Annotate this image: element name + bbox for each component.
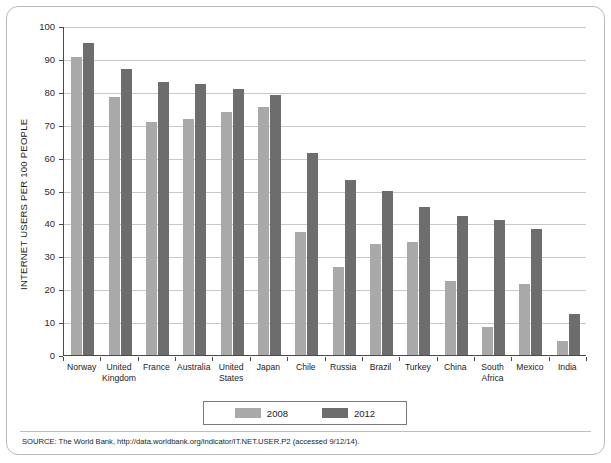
bar-2008 (482, 327, 493, 355)
bar-group (176, 27, 213, 355)
bar-2012 (382, 191, 393, 355)
source-note: SOURCE: The World Bank, http://data.worl… (22, 437, 359, 446)
legend-entry-2008[interactable]: 2008 (235, 408, 288, 419)
bar-group (512, 27, 549, 355)
bar-2008 (295, 232, 306, 355)
x-tick-mark (250, 357, 251, 361)
x-tick-mark (511, 357, 512, 361)
x-tick-mark (325, 357, 326, 361)
bar-2012 (569, 314, 580, 355)
x-tick-mark (175, 357, 176, 361)
bar-2008 (370, 244, 381, 355)
x-tick-mark (399, 357, 400, 361)
bar-group (139, 27, 176, 355)
bar-2008 (519, 284, 530, 355)
y-tick-label: 10 (29, 318, 55, 328)
y-tick-label: 40 (29, 219, 55, 229)
bar-2008 (445, 281, 456, 355)
bar-2012 (233, 89, 244, 355)
chart-figure: INTERNET USERS PER 100 PEOPLE 0102030405… (0, 0, 611, 463)
legend-label-2012: 2012 (354, 408, 375, 419)
x-tick-mark (287, 357, 288, 361)
y-axis-title: INTERNET USERS PER 100 PEOPLE (18, 276, 29, 290)
plot-area (63, 27, 586, 356)
bar-2012 (494, 220, 505, 355)
bar-group (326, 27, 363, 355)
y-tick-label: 60 (29, 154, 55, 164)
bar-2012 (121, 69, 132, 355)
bar-2008 (183, 119, 194, 355)
source-divider (20, 431, 591, 432)
bar-2012 (83, 43, 94, 355)
bar-group (400, 27, 437, 355)
x-tick-mark (549, 357, 550, 361)
bar-group (363, 27, 400, 355)
bar-2008 (71, 57, 82, 355)
y-tick-label: 30 (29, 252, 55, 262)
x-tick-mark (100, 357, 101, 361)
y-tick-label: 20 (29, 285, 55, 295)
x-tick-mark (362, 357, 363, 361)
x-tick-mark (212, 357, 213, 361)
bar-group (64, 27, 101, 355)
bar-2012 (307, 153, 318, 355)
bar-2008 (258, 107, 269, 355)
y-tick-label: 70 (29, 121, 55, 131)
bar-2012 (345, 180, 356, 355)
bar-2012 (270, 95, 281, 355)
bar-2012 (158, 82, 169, 355)
legend-entry-2012[interactable]: 2012 (322, 408, 375, 419)
x-tick-mark (63, 357, 64, 361)
legend-swatch-2008 (235, 408, 261, 418)
chart-legend: 2008 2012 (203, 401, 407, 425)
bar-2008 (109, 97, 120, 355)
bar-2008 (221, 112, 232, 355)
x-tick-mark (586, 357, 587, 361)
bar-group (213, 27, 250, 355)
bar-group (288, 27, 325, 355)
bar-group (550, 27, 587, 355)
x-tick-mark (474, 357, 475, 361)
bar-group (101, 27, 138, 355)
bar-2012 (531, 229, 542, 355)
bar-group (475, 27, 512, 355)
plot-area-wrapper: INTERNET USERS PER 100 PEOPLE 0102030405… (0, 0, 611, 463)
bar-2008 (407, 242, 418, 355)
y-tick-label: 90 (29, 55, 55, 65)
bar-2012 (457, 216, 468, 355)
y-tick-label: 100 (29, 22, 55, 32)
legend-swatch-2012 (322, 408, 348, 418)
legend-label-2008: 2008 (267, 408, 288, 419)
bar-group (251, 27, 288, 355)
bar-group (438, 27, 475, 355)
y-tick-label: 80 (29, 88, 55, 98)
bar-2012 (195, 84, 206, 355)
bar-2008 (557, 341, 568, 355)
bar-2008 (333, 267, 344, 355)
y-tick-label: 0 (29, 351, 55, 361)
x-tick-label: India (545, 362, 590, 373)
x-tick-mark (138, 357, 139, 361)
bar-2012 (419, 207, 430, 355)
y-tick-label: 50 (29, 187, 55, 197)
x-tick-mark (437, 357, 438, 361)
bar-2008 (146, 122, 157, 355)
